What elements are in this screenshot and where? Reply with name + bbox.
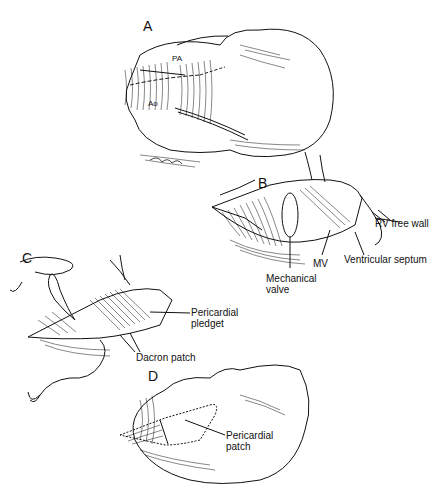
panel-label-a: A [143,18,152,34]
label-pa: PA [172,53,182,64]
panel-c-drawing [10,255,190,402]
panel-b-drawing [212,152,400,268]
label-dacron-patch: Dacron patch [136,352,195,363]
label-pericardial-patch-line2: patch [226,441,250,452]
label-mechanical-valve-line1: Mechanical [266,273,317,284]
label-mv: MV [313,258,328,269]
label-ao: Ao [148,98,158,109]
panel-label-b: B [258,175,267,191]
label-mechanical-valve-line2: valve [266,284,289,295]
label-pericardial-pledget-line1: Pericardial [191,307,238,318]
panel-label-c: C [22,250,32,266]
label-ventricular-septum: Ventricular septum [344,254,427,265]
label-pericardial-patch-line1: Pericardial [226,430,273,441]
panel-label-d: D [148,368,158,384]
label-pericardial-pledget-line2: pledget [191,318,224,329]
label-rv-free-wall: RV free wall [375,218,429,229]
surgical-illustration [0,0,433,487]
